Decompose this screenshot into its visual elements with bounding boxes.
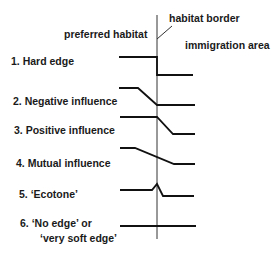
edge-type-label: 1. Hard edge	[11, 55, 74, 67]
habitat-border-pointer	[157, 26, 172, 39]
edge-type-hard-edge: 1. Hard edge	[11, 55, 193, 75]
edge-type-no-edge: 6. ‘No edge’ or ‘very soft edge’	[20, 217, 196, 244]
edge-type-positive-influence: 3. Positive influence	[14, 117, 195, 136]
edge-type-label: 5. ‘Ecotone’	[19, 188, 78, 200]
edge-type-ecotone: 5. ‘Ecotone’	[19, 184, 194, 200]
edge-type-mutual-influence: 4. Mutual influence	[16, 148, 195, 169]
habitat-edge-diagram: habitat border preferred habitat immigra…	[0, 0, 277, 255]
habitat-border-label: habitat border	[169, 12, 240, 24]
edge-type-label: 2. Negative influence	[13, 95, 118, 107]
immigration-area-label: immigration area	[185, 39, 270, 51]
hard-edge-profile	[119, 57, 193, 75]
edge-type-label: 3. Positive influence	[14, 124, 115, 136]
edge-type-label-line2: ‘very soft edge’	[40, 232, 117, 244]
preferred-habitat-label: preferred habitat	[64, 28, 148, 40]
edge-type-label: 6. ‘No edge’ or	[20, 217, 92, 229]
edge-type-label: 4. Mutual influence	[16, 157, 111, 169]
edge-type-negative-influence: 2. Negative influence	[13, 88, 195, 107]
